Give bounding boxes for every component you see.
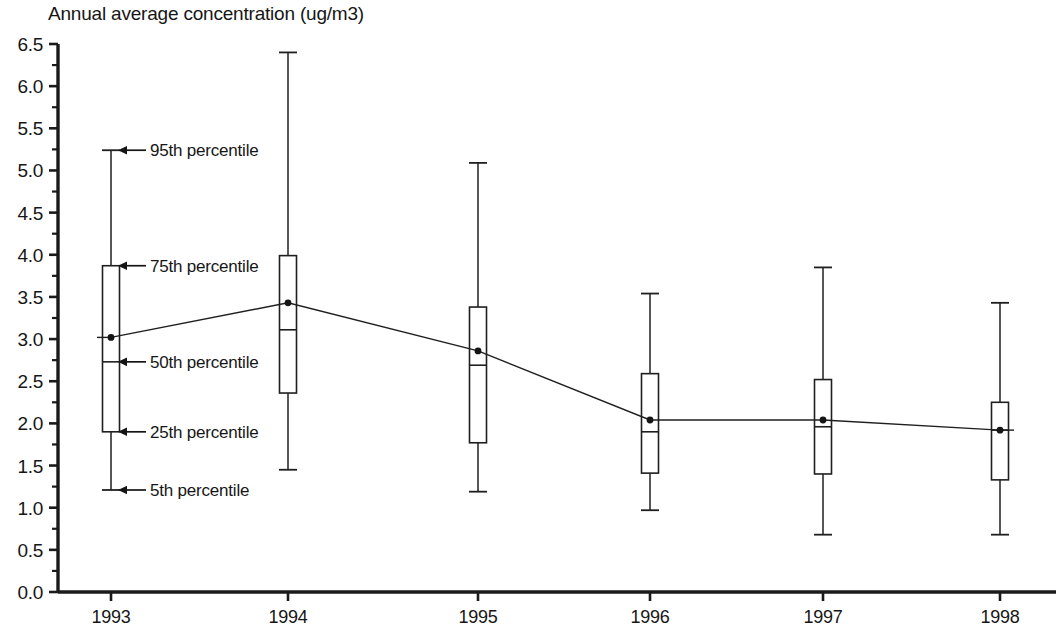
box-plot-item <box>102 150 120 490</box>
x-axis: 199319941995199619971998 <box>58 592 1056 627</box>
y-tick-label: 1.0 <box>17 498 43 519</box>
box-plot-item <box>991 303 1009 535</box>
annotation-p25: 25th percentile <box>118 423 259 442</box>
mean-marker <box>475 347 482 354</box>
annotation-label: 5th percentile <box>150 481 249 500</box>
x-tick-label: 1994 <box>269 607 308 627</box>
box-plot-item <box>641 294 659 511</box>
interquartile-box <box>992 402 1009 480</box>
mean-marker <box>820 417 827 424</box>
y-axis: 0.00.51.01.52.02.53.03.54.04.55.05.56.06… <box>17 34 58 603</box>
percentile-annotations: 95th percentile75th percentile50th perce… <box>118 141 259 500</box>
box-plot-canvas: 0.00.51.01.52.02.53.03.54.04.55.05.56.06… <box>0 0 1059 639</box>
x-tick-label: 1993 <box>92 607 131 627</box>
chart-container: Annual average concentration (ug/m3) 0.0… <box>0 0 1059 639</box>
annotation-p95: 95th percentile <box>118 141 259 160</box>
annotation-p75: 75th percentile <box>118 257 259 276</box>
y-tick-label: 5.5 <box>17 118 43 139</box>
y-tick-label: 0.5 <box>17 540 43 561</box>
interquartile-box <box>280 256 297 393</box>
annotation-p50: 50th percentile <box>118 353 259 372</box>
x-tick-label: 1995 <box>459 607 498 627</box>
y-tick-label: 5.0 <box>17 160 43 181</box>
y-tick-label: 6.0 <box>17 76 43 97</box>
x-tick-label: 1997 <box>804 607 843 627</box>
y-tick-label: 6.5 <box>17 34 43 55</box>
box-plot-item <box>814 267 832 534</box>
interquartile-box <box>470 307 487 443</box>
y-tick-label: 4.5 <box>17 203 43 224</box>
annotation-label: 50th percentile <box>150 353 259 372</box>
y-tick-label: 1.5 <box>17 456 43 477</box>
interquartile-box <box>103 266 120 432</box>
mean-marker <box>108 334 115 341</box>
box-plot-item <box>279 52 297 469</box>
mean-marker <box>647 417 654 424</box>
y-tick-label: 2.5 <box>17 371 43 392</box>
annotation-p5: 5th percentile <box>118 481 249 500</box>
annotation-label: 75th percentile <box>150 257 259 276</box>
y-tick-label: 2.0 <box>17 413 43 434</box>
x-tick-label: 1998 <box>981 607 1020 627</box>
y-tick-label: 4.0 <box>17 245 43 266</box>
y-tick-label: 3.5 <box>17 287 43 308</box>
annotation-label: 95th percentile <box>150 141 259 160</box>
annotation-label: 25th percentile <box>150 423 259 442</box>
mean-marker <box>997 427 1004 434</box>
annotation-arrowhead-icon <box>118 146 127 155</box>
annotation-arrowhead-icon <box>118 486 127 495</box>
y-tick-label: 0.0 <box>17 582 43 603</box>
box-plot-series <box>102 52 1009 534</box>
mean-marker <box>285 299 292 306</box>
box-plot-item <box>469 163 487 492</box>
x-tick-label: 1996 <box>631 607 670 627</box>
y-tick-label: 3.0 <box>17 329 43 350</box>
